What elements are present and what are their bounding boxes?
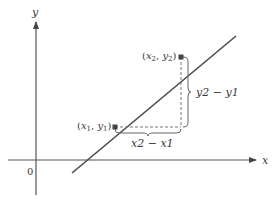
point-1-label: (x1, y1) bbox=[77, 120, 112, 133]
point-1-marker bbox=[113, 125, 118, 130]
origin-label: 0 bbox=[27, 166, 33, 177]
point-2-label: (x2, y2) bbox=[142, 50, 177, 63]
point-2-marker bbox=[179, 55, 184, 60]
run-bracket bbox=[115, 129, 181, 136]
rise-label: y2 − y1 bbox=[195, 86, 239, 99]
y-axis-label: y bbox=[31, 6, 39, 19]
rise-bracket bbox=[183, 57, 191, 127]
x-axis-label: x bbox=[262, 154, 269, 167]
slope-diagram: x y 0 (x1, y1) (x2, y2) x2 − x1 y2 − y1 bbox=[0, 0, 280, 201]
run-label: x2 − x1 bbox=[131, 137, 174, 150]
